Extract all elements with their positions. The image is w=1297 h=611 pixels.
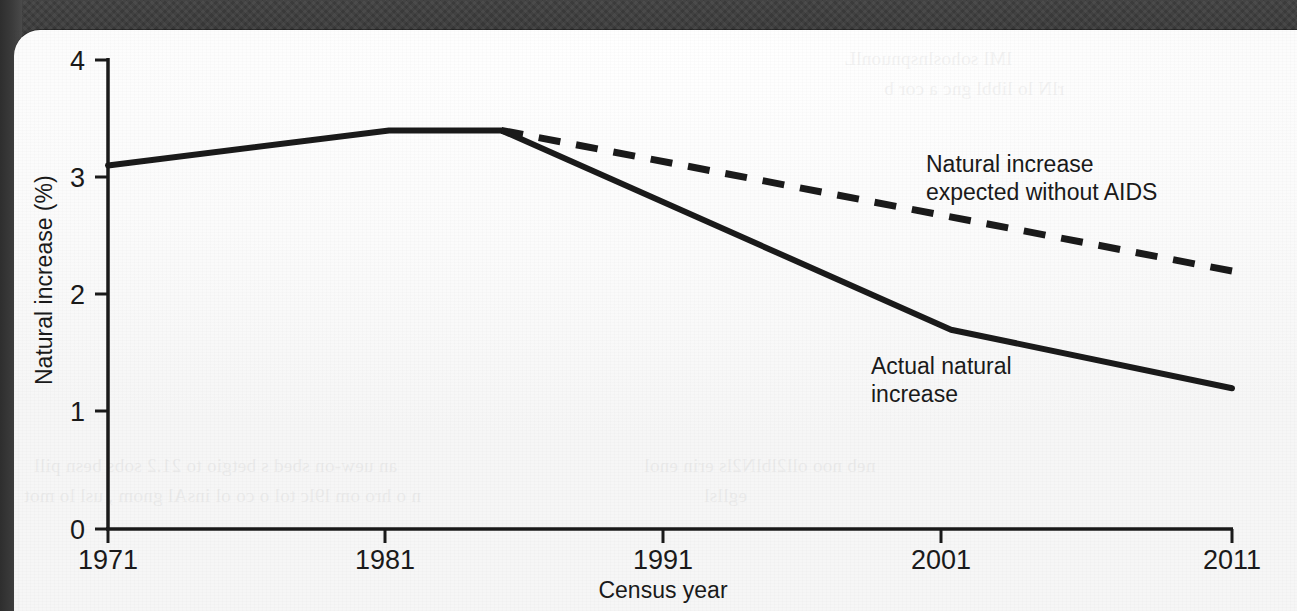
y-tick-label: 4 — [70, 46, 85, 76]
x-axis-tick-labels: 1971 1981 1991 2001 2011 — [78, 545, 1261, 575]
y-tick-label: 3 — [70, 163, 85, 193]
x-tick-label: 2001 — [911, 545, 971, 575]
annotation-line: increase — [871, 381, 958, 407]
line-chart: 4 3 2 1 0 Natural increase (%) 1971 1981 — [0, 0, 1297, 611]
x-tick-label: 1981 — [355, 545, 415, 575]
chart-svg: 4 3 2 1 0 Natural increase (%) 1971 1981 — [0, 0, 1297, 611]
y-axis-ticks — [95, 60, 108, 529]
annotation-line: expected without AIDS — [926, 179, 1157, 205]
annotation-line: Natural increase — [926, 151, 1093, 177]
x-tick-label: 1971 — [78, 545, 138, 575]
x-axis-ticks — [108, 529, 1232, 543]
annotation-line: Actual natural — [871, 353, 1012, 379]
scanned-page-photo: lMl sohoslnspnuonlL rlN lo libbl gnc a c… — [0, 0, 1297, 611]
x-tick-label: 1991 — [633, 545, 693, 575]
x-tick-label: 2011 — [1203, 545, 1261, 575]
x-axis-title: Census year — [598, 577, 727, 603]
y-axis-title: Natural increase (%) — [31, 175, 57, 385]
y-tick-label: 1 — [70, 397, 85, 427]
axis-lines — [106, 58, 1233, 530]
y-tick-label: 0 — [70, 515, 85, 545]
annotation-actual-natural-increase: Actual natural increase — [871, 353, 1012, 407]
annotation-expected-without-aids: Natural increase expected without AIDS — [926, 151, 1157, 205]
y-tick-label: 2 — [70, 280, 85, 310]
y-axis-tick-labels: 4 3 2 1 0 — [70, 46, 85, 545]
